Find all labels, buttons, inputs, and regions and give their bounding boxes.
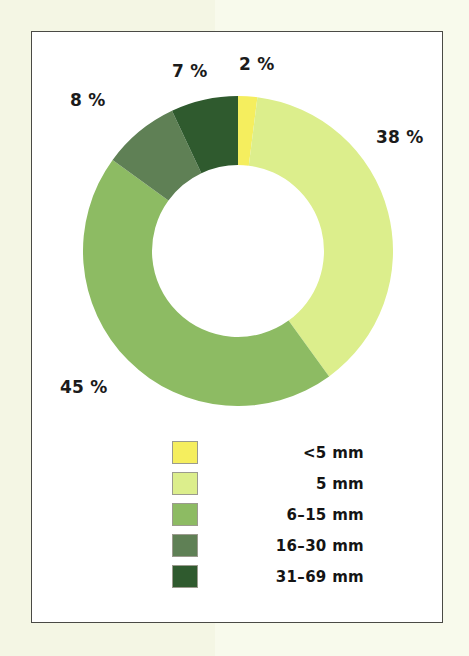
legend-item-label: 6–15 mm (198, 506, 372, 524)
chart-legend: <5 mm5 mm6–15 mm16–30 mm31–69 mm (172, 437, 372, 592)
donut-chart-svg (83, 96, 393, 406)
legend-item[interactable]: 5 mm (172, 468, 372, 499)
legend-item-label: <5 mm (198, 444, 372, 462)
legend-color-swatch (172, 441, 198, 464)
donut-chart (83, 96, 393, 406)
legend-item[interactable]: <5 mm (172, 437, 372, 468)
legend-color-swatch (172, 472, 198, 495)
data-label-lt5mm: 2 % (239, 54, 274, 74)
legend-color-swatch (172, 503, 198, 526)
legend-item-label: 5 mm (198, 475, 372, 493)
legend-color-swatch (172, 565, 198, 588)
legend-color-swatch (172, 534, 198, 557)
data-label-5mm: 38 % (376, 127, 423, 147)
data-label-16-30mm: 8 % (70, 90, 105, 110)
donut-slice[interactable] (83, 160, 329, 406)
legend-item-label: 16–30 mm (198, 537, 372, 555)
figure-frame: 2 % 7 % 8 % 38 % 45 % <5 mm5 mm6–15 mm16… (31, 31, 443, 623)
donut-slice-group (83, 96, 393, 406)
legend-item[interactable]: 16–30 mm (172, 530, 372, 561)
legend-item[interactable]: 31–69 mm (172, 561, 372, 592)
data-label-31-69mm: 7 % (172, 61, 207, 81)
legend-item-label: 31–69 mm (198, 568, 372, 586)
data-label-6-15mm: 45 % (60, 377, 107, 397)
legend-item[interactable]: 6–15 mm (172, 499, 372, 530)
